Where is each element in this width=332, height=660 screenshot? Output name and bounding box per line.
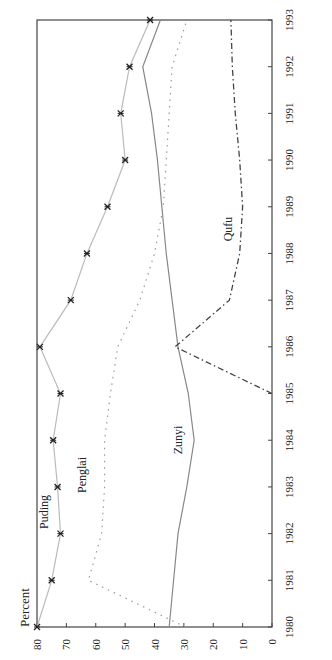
line-chart: 0102030405060708019801981198219831984198…	[0, 0, 332, 660]
value-tick-label: 40	[149, 639, 161, 651]
x-marker-icon	[84, 250, 90, 256]
series-line-qufu	[175, 20, 272, 394]
x-marker-icon	[68, 297, 74, 303]
year-tick-label: 1990	[283, 149, 295, 172]
year-tick-label: 1992	[283, 56, 295, 78]
series-label-qufu: Qufu	[221, 217, 235, 242]
year-tick-label: 1981	[283, 569, 295, 591]
value-tick-label: 30	[178, 639, 190, 651]
x-marker-icon	[105, 204, 111, 210]
x-marker-icon	[147, 17, 153, 23]
value-tick-label: 0	[266, 639, 278, 645]
series-line-puding	[37, 20, 150, 627]
plot-frame	[37, 20, 272, 627]
value-tick-label: 10	[237, 639, 249, 651]
year-tick-label: 1987	[283, 289, 295, 312]
value-tick-label: 80	[31, 639, 43, 651]
value-tick-label: 70	[60, 639, 72, 651]
year-tick-label: 1980	[283, 616, 295, 639]
year-tick-label: 1983	[283, 475, 295, 498]
year-tick-label: 1993	[283, 9, 295, 32]
year-tick-label: 1982	[283, 523, 295, 545]
year-tick-label: 1988	[283, 242, 295, 265]
x-marker-icon	[37, 344, 43, 350]
y-axis-label: Percent	[17, 588, 32, 627]
series-label-zunyi: Zunyi	[171, 425, 185, 454]
year-tick-label: 1986	[283, 335, 295, 358]
year-tick-label: 1985	[283, 382, 295, 405]
value-tick-label: 50	[119, 639, 131, 651]
year-tick-label: 1989	[283, 195, 295, 218]
year-tick-label: 1991	[283, 102, 295, 124]
value-tick-label: 20	[207, 639, 219, 651]
series-label-penglai: Penglai	[75, 456, 89, 493]
series-label-puding: Puding	[37, 495, 51, 529]
series-line-zunyi	[143, 20, 194, 627]
plot-area: 0102030405060708019801981198219831984198…	[31, 9, 295, 651]
year-tick-label: 1984	[283, 429, 295, 452]
value-tick-label: 60	[90, 639, 102, 651]
series-line-penglai	[88, 20, 186, 627]
